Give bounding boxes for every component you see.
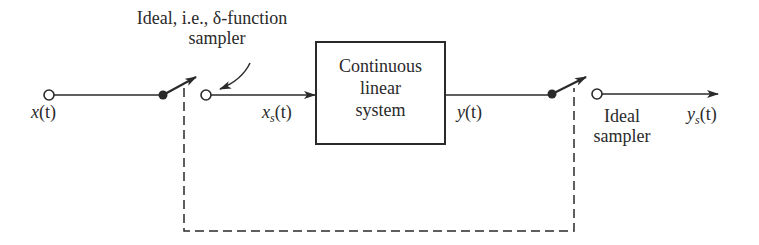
sampler2-output-circle	[592, 89, 602, 99]
annotation-line2: sampler	[112, 28, 312, 48]
sampled-input-label: xs(t)	[262, 102, 292, 122]
output-signal-label: y(t)	[457, 102, 482, 122]
sampler1-annotation: Ideal, i.e., δ-function sampler	[112, 8, 312, 48]
annotation-pointer-arrow	[220, 63, 250, 89]
annotation-line1: Ideal, i.e., δ-function	[112, 8, 312, 28]
sampler1-switch-arm	[163, 77, 196, 95]
input-terminal-circle	[44, 90, 54, 100]
sampler1-output-circle	[201, 90, 211, 100]
system-block-label: Continuous linear system	[316, 55, 445, 121]
sampler2-switch-arm	[552, 77, 586, 94]
input-signal-label: x(t)	[31, 102, 56, 122]
output-sampler-label: Ideal sampler	[582, 106, 662, 146]
sampled-output-label: ys(t)	[687, 104, 717, 124]
sampled-system-diagram: Ideal, i.e., δ-function sampler x(t) xs(…	[0, 0, 759, 245]
